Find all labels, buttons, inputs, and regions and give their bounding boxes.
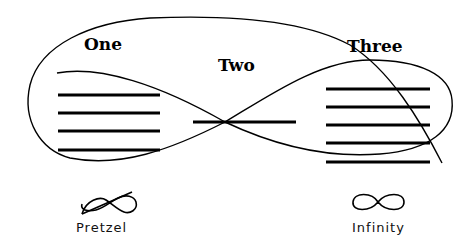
region-label-two: Two — [218, 55, 255, 75]
region-label-one: One — [84, 34, 122, 54]
legend-label-pretzel: Pretzel — [76, 220, 127, 235]
legend-label-infinity: Infinity — [352, 220, 405, 235]
pretzel-infinity-diagram: One Two Three Pretzel Infinity — [0, 0, 473, 249]
region-label-three: Three — [347, 36, 403, 56]
pretzel-icon — [82, 192, 137, 214]
region-three-lines — [326, 89, 430, 162]
region-one-lines — [58, 95, 160, 150]
infinity-icon — [353, 195, 404, 210]
